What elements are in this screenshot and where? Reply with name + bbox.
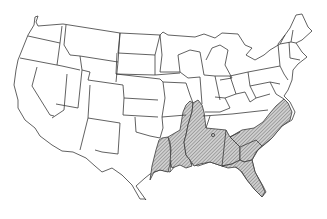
florida-region (222, 160, 265, 197)
us-outline (14, 14, 312, 200)
us-map (0, 0, 327, 219)
